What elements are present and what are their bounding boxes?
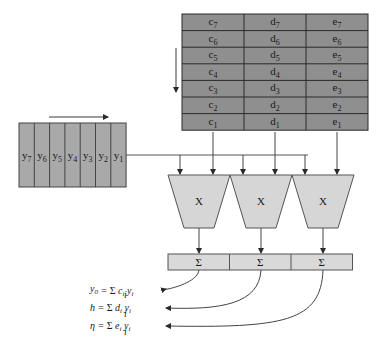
connection-arrows (180, 132, 337, 174)
summer-label: Σ (257, 256, 263, 268)
multiplier-row: XXX (168, 175, 354, 253)
coefficient-table: c7d7e7c6d6e6c5d5e5c4d4e4c3d3e3c2d2e2c1d1… (182, 14, 368, 130)
y-input-register: y7y6y5y4y3y2y1 (19, 123, 126, 187)
multiplier-label: X (257, 195, 265, 207)
sum-index: i (124, 326, 127, 337)
output-equations: y0 = Σ ci yiih = Σ di yiiη = Σ ei yii (89, 270, 323, 337)
summer-label: Σ (319, 256, 325, 268)
sum-index: i (124, 289, 127, 300)
summer-label: Σ (196, 256, 202, 268)
summer-row: ΣΣΣ (168, 254, 353, 270)
systolic-correlator-diagram: c7d7e7c6d6e6c5d5e5c4d4e4c3d3e3c2d2e2c1d1… (0, 0, 387, 350)
output-arrow (166, 270, 323, 326)
output-arrow (166, 270, 261, 308)
multiplier-label: X (319, 195, 327, 207)
multiplier-label: X (195, 195, 203, 207)
sum-index: i (124, 308, 127, 319)
output-arrow (165, 270, 199, 289)
